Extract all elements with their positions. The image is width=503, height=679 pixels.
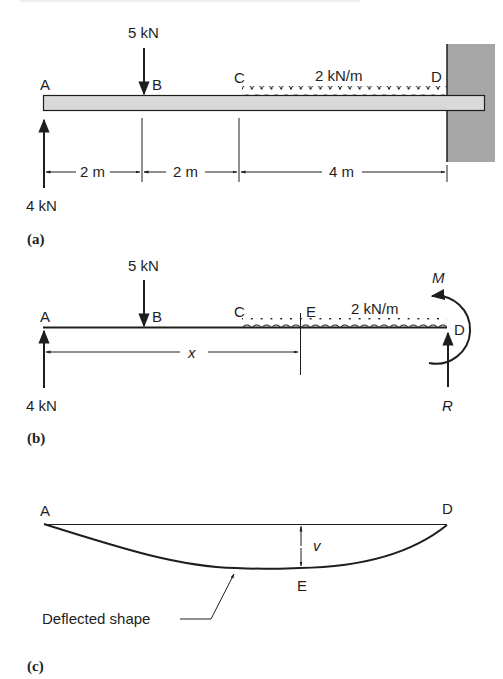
point-load-label: 5 kN: [128, 24, 159, 41]
beam: [44, 96, 485, 111]
beam-diagram: 5 kN A B C D 2 kN/m 4 kN 2 m 2 m 4 m (a): [0, 0, 503, 679]
moment-label: M: [432, 269, 445, 286]
label-e: E: [306, 303, 316, 320]
callout-leader: [180, 574, 234, 619]
label-a: A: [40, 308, 50, 325]
dimension-cd: 4 m: [241, 163, 445, 180]
deflected-shape-curve: [44, 524, 447, 569]
label-c: C: [234, 303, 245, 320]
distributed-load-label: 2 kN/m: [315, 67, 363, 84]
distributed-load: [242, 318, 447, 328]
deflection-dimension: v: [301, 526, 322, 566]
dimension-bc: 2 m: [144, 163, 237, 180]
deflected-shape-label: Deflected shape: [42, 610, 150, 627]
reaction-label-a: 4 kN: [26, 397, 57, 414]
label-b: B: [152, 308, 162, 325]
distributed-load-label: 2 kN/m: [351, 300, 399, 317]
label-d: D: [431, 68, 442, 85]
dimension-ab: 2 m: [46, 163, 140, 180]
label-a: A: [40, 502, 50, 519]
svg-text:x: x: [187, 344, 196, 361]
caption-b: (b): [27, 430, 45, 447]
label-d: D: [442, 500, 453, 517]
svg-text:2 m: 2 m: [80, 163, 105, 180]
svg-text:2 m: 2 m: [173, 163, 198, 180]
dimension-x: x: [46, 344, 298, 361]
caption-c: (c): [27, 658, 44, 675]
caption-a: (a): [27, 231, 45, 248]
svg-text:v: v: [313, 537, 322, 554]
label-b: B: [152, 76, 162, 93]
reaction-label-r: R: [442, 397, 453, 414]
panel-a: 5 kN A B C D 2 kN/m 4 kN 2 m 2 m 4 m (a): [26, 24, 495, 248]
reaction-label-a: 4 kN: [26, 197, 57, 214]
point-load-label: 5 kN: [128, 257, 159, 274]
distributed-load: [242, 86, 447, 96]
label-c: C: [234, 69, 245, 86]
label-e: E: [297, 577, 307, 594]
label-d: D: [454, 321, 465, 338]
label-a: A: [40, 76, 50, 93]
svg-text:4 m: 4 m: [329, 163, 354, 180]
panel-b: 5 kN A B C E 2 kN/m D 4 kN x M R (b): [26, 257, 470, 447]
panel-c: A D E v Deflected shape (c): [27, 500, 453, 675]
